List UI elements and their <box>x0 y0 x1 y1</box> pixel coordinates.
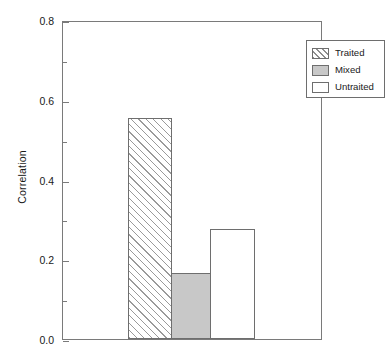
legend-swatch-open-icon <box>312 82 329 93</box>
y-tick-minor <box>63 62 67 63</box>
legend-item-traited: Traited <box>312 45 380 61</box>
y-tick-major <box>63 261 69 262</box>
y-tick-major <box>63 341 69 342</box>
legend-item-mixed: Mixed <box>312 62 380 78</box>
chart-legend: Traited Mixed Untraited <box>306 40 385 98</box>
bar-untraited <box>210 229 255 339</box>
plot-area: Traited Mixed Untraited <box>62 21 322 340</box>
legend-swatch-hatched-icon <box>312 48 329 59</box>
y-tick-label: 0.0 <box>14 335 54 346</box>
y-tick-minor <box>63 142 67 143</box>
legend-item-untraited: Untraited <box>312 79 380 95</box>
y-tick-major <box>63 102 69 103</box>
y-tick-label: 0.6 <box>14 96 54 107</box>
bar-traited <box>128 118 172 339</box>
y-tick-label: 0.2 <box>14 255 54 266</box>
legend-label-mixed: Mixed <box>335 65 361 75</box>
bar-mixed <box>171 273 211 339</box>
legend-swatch-solid-icon <box>312 65 329 76</box>
y-tick-major <box>63 22 69 23</box>
y-tick-minor <box>63 301 67 302</box>
y-tick-minor <box>63 221 67 222</box>
legend-label-untraited: Untraited <box>335 82 374 92</box>
y-tick-label: 0.4 <box>14 175 54 186</box>
y-tick-major <box>63 182 69 183</box>
y-tick-label: 0.8 <box>14 16 54 27</box>
legend-label-traited: Traited <box>335 48 365 58</box>
